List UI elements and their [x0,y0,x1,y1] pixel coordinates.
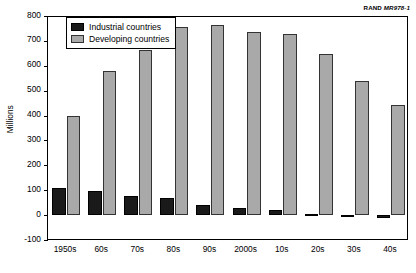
legend-swatch-industrial [71,23,84,31]
credit-org: RAND [364,4,382,11]
plot-area: 8007006005004003002001000-100 [47,16,408,240]
chart-figure: RANDMR978-1 Millions 8007006005004003002… [0,0,416,273]
bar-industrial [52,188,66,215]
legend-swatch-developing [71,35,84,43]
y-axis-title: Millions [6,84,14,154]
bar-developing [139,50,153,216]
y-axis-tick-label: 700 [27,35,41,43]
y-axis-tick-label: 300 [27,135,41,143]
bar-group [233,16,261,239]
legend-label: Developing countries [89,35,169,44]
bar-industrial [377,215,391,218]
y-axis-tick-label: 400 [27,110,41,118]
y-axis-tick-label: 800 [27,11,41,19]
bar-industrial [88,191,102,215]
y-axis-tick-label: 500 [27,85,41,93]
y-axis-tick-label: 0 [36,210,41,218]
bar-group [341,16,369,239]
bar-developing [247,32,261,215]
y-axis-tick-mark [44,240,49,241]
legend-label: Industrial countries [89,23,161,32]
bar-developing [67,116,81,216]
bar-group [52,16,80,239]
bar-industrial [124,196,138,215]
y-axis-tick-label: 600 [27,60,41,68]
bar-industrial [233,208,247,215]
bar-developing [355,81,369,215]
bar-industrial [341,215,355,217]
x-axis-tick-label: 40s [360,245,416,253]
y-axis-tick-label: -100 [24,235,41,243]
y-axis-tick-label: 100 [27,185,41,193]
bar-developing [175,27,189,215]
credit-document-number: MR978-1 [384,4,410,11]
bar-industrial [269,210,283,215]
bar-group [160,16,188,239]
bar-developing [319,54,333,215]
bar-developing [211,25,225,215]
bar-group [269,16,297,239]
bar-industrial [160,198,174,215]
chart-legend: Industrial countriesDeveloping countries [66,17,176,49]
legend-item: Industrial countries [71,21,169,33]
bar-series-container [48,16,408,239]
y-axis-tick-label: 200 [27,160,41,168]
bar-group [88,16,116,239]
bar-industrial [305,214,319,216]
bar-developing [283,34,297,215]
bar-developing [391,105,405,215]
bar-group [377,16,405,239]
bar-developing [103,71,117,215]
bar-group [196,16,224,239]
legend-item: Developing countries [71,33,169,45]
bar-industrial [196,205,210,215]
source-credit: RANDMR978-1 [364,5,410,11]
bar-group [124,16,152,239]
bar-group [305,16,333,239]
